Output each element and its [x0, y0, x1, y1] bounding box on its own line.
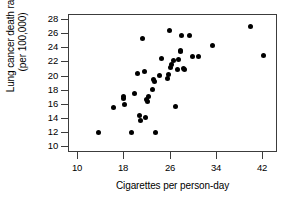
x-axis-tick — [262, 152, 263, 159]
x-axis-tick-label: 26 — [158, 163, 182, 173]
y-axis-tick-label: 10 — [36, 141, 58, 151]
x-axis-tick-label: 18 — [111, 163, 135, 173]
x-axis-tick — [216, 152, 217, 159]
y-axis-tick — [61, 90, 68, 91]
y-axis-tick-label: 26 — [36, 28, 58, 38]
plot-area-frame — [68, 14, 277, 152]
y-axis-tick-label: 22 — [36, 56, 58, 66]
y-axis-title-line2: (per 100,000) — [17, 0, 29, 107]
x-axis-tick — [123, 152, 124, 159]
y-axis-tick-label: 18 — [36, 85, 58, 95]
y-axis-tick-label: 24 — [36, 42, 58, 52]
y-axis-tick — [61, 19, 68, 20]
scatter-plot-figure: Lung cancer death rate (per 100,000) Cig… — [0, 0, 291, 203]
x-axis-tick — [77, 152, 78, 159]
y-axis-tick — [61, 76, 68, 77]
y-axis-tick — [61, 118, 68, 119]
x-axis-tick-label: 10 — [65, 163, 89, 173]
y-axis-tick-label: 16 — [36, 99, 58, 109]
x-axis-tick — [170, 152, 171, 159]
y-axis-tick — [61, 104, 68, 105]
y-axis-tick — [61, 61, 68, 62]
y-axis-tick — [61, 132, 68, 133]
y-axis-tick-label: 12 — [36, 127, 58, 137]
y-axis-tick-label: 28 — [36, 14, 58, 24]
y-axis-title-line1: Lung cancer death rate — [5, 0, 16, 92]
x-axis-tick-label: 42 — [250, 163, 274, 173]
y-axis-title: Lung cancer death rate (per 100,000) — [5, 0, 29, 107]
y-axis-tick — [61, 33, 68, 34]
y-axis-tick — [61, 47, 68, 48]
x-axis-tick-label: 34 — [204, 163, 228, 173]
y-axis-tick — [61, 146, 68, 147]
x-axis-title: Cigarettes per person-day — [68, 180, 277, 191]
y-axis-tick-label: 20 — [36, 71, 58, 81]
y-axis-tick-label: 14 — [36, 113, 58, 123]
